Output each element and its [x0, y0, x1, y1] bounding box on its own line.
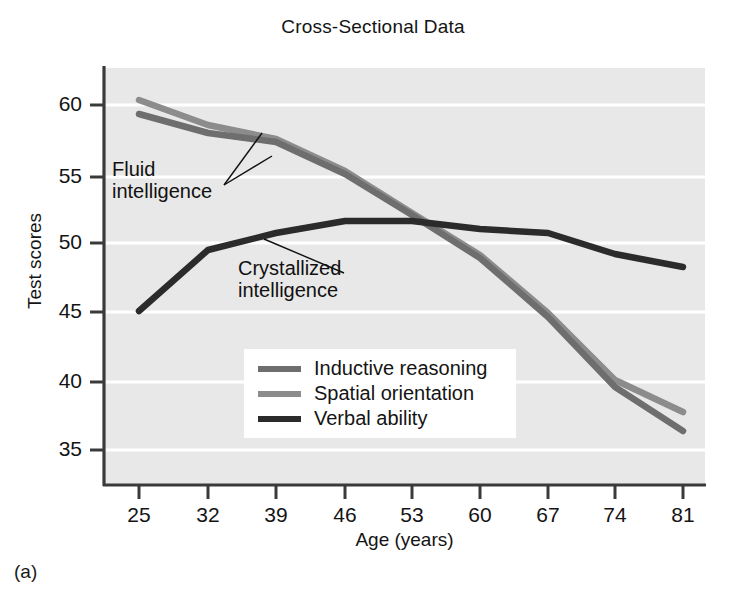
annotation-leader-lines [224, 133, 344, 273]
x-axis-ticks [139, 485, 683, 499]
y-axis-ticks [90, 105, 104, 450]
annotation-fluid-line1: Fluid [112, 158, 212, 180]
x-tick-label-81: 81 [653, 503, 713, 527]
legend-label-spatial-orientation: Spatial orientation [314, 382, 474, 405]
legend-item-verbal-ability: Verbal ability [258, 406, 506, 431]
x-tick-label-74: 74 [585, 503, 645, 527]
y-axis-title: Test scores [24, 171, 46, 351]
annotation-fluid-line2: intelligence [112, 180, 212, 202]
x-axis-title: Age (years) [104, 529, 705, 551]
y-tick-label-60: 60 [22, 92, 82, 116]
x-tick-label-53: 53 [382, 503, 442, 527]
chart-legend: Inductive reasoning Spatial orientation … [244, 349, 516, 438]
legend-swatch-icon-spatial-orientation [258, 391, 301, 397]
x-tick-label-46: 46 [315, 503, 375, 527]
legend-swatch-icon-verbal-ability [258, 416, 301, 422]
x-tick-label-39: 39 [246, 503, 306, 527]
legend-label-inductive-reasoning: Inductive reasoning [314, 357, 487, 380]
y-tick-label-35: 35 [22, 437, 82, 461]
annotation-crystallized-line2: intelligence [238, 279, 341, 301]
annotation-crystallized-line1: Crystallized [238, 257, 341, 279]
series-verbal-ability [139, 221, 683, 311]
figure-panel: Cross-Sectional Data [0, 0, 746, 603]
x-tick-label-67: 67 [518, 503, 578, 527]
legend-swatch-icon-inductive-reasoning [258, 366, 301, 372]
legend-label-verbal-ability: Verbal ability [314, 407, 427, 430]
x-tick-label-32: 32 [178, 503, 238, 527]
y-tick-label-40: 40 [22, 369, 82, 393]
panel-label: (a) [14, 561, 37, 583]
annotation-fluid-intelligence: Fluid intelligence [112, 158, 212, 203]
legend-item-inductive-reasoning: Inductive reasoning [258, 356, 506, 381]
annotation-crystallized-intelligence: Crystallized intelligence [238, 257, 341, 302]
x-tick-label-60: 60 [450, 503, 510, 527]
chart-title: Cross-Sectional Data [0, 16, 746, 38]
x-tick-label-25: 25 [109, 503, 169, 527]
legend-item-spatial-orientation: Spatial orientation [258, 381, 506, 406]
